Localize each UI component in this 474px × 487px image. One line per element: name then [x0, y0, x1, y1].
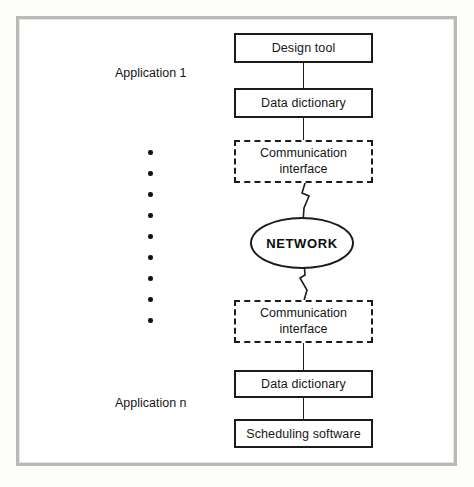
label-application-bottom: Application n — [115, 396, 187, 410]
node-communication-interface-bottom-label-line2: interface — [280, 322, 328, 338]
ellipsis-dot — [148, 213, 153, 218]
vertical-ellipsis — [148, 150, 160, 334]
ellipsis-dot — [148, 192, 153, 197]
node-data-dictionary-bottom-label: Data dictionary — [261, 377, 346, 391]
node-scheduling-software[interactable]: Scheduling software — [234, 419, 373, 448]
node-communication-interface-top-label-line2: interface — [280, 162, 328, 178]
ellipsis-dot — [148, 297, 153, 302]
node-communication-interface-top[interactable]: Communication interface — [234, 140, 373, 183]
diagram-canvas: Application 1 Application n Design tool … — [0, 0, 474, 487]
ellipsis-dot — [148, 318, 153, 323]
node-scheduling-software-label: Scheduling software — [246, 427, 360, 441]
node-network[interactable]: NETWORK — [250, 217, 354, 269]
ellipsis-dot — [148, 276, 153, 281]
node-communication-interface-bottom-label-line1: Communication — [260, 306, 347, 322]
ellipsis-dot — [148, 171, 153, 176]
connector-design-tool-to-data-dictionary — [303, 62, 304, 89]
node-design-tool-label: Design tool — [272, 41, 336, 55]
page-frame — [16, 16, 457, 466]
connector-data-dictionary-to-comm-interface-top — [303, 117, 304, 141]
node-data-dictionary-top-label: Data dictionary — [261, 96, 346, 110]
node-network-label: NETWORK — [266, 236, 337, 251]
node-data-dictionary-top[interactable]: Data dictionary — [234, 88, 373, 118]
node-design-tool[interactable]: Design tool — [234, 33, 373, 63]
lightning-connector-top — [286, 180, 324, 222]
label-application-top: Application 1 — [115, 66, 187, 80]
connector-comm-interface-to-data-dictionary-bottom — [303, 342, 304, 371]
node-communication-interface-bottom[interactable]: Communication interface — [234, 300, 373, 343]
ellipsis-dot — [148, 255, 153, 260]
ellipsis-dot — [148, 234, 153, 239]
node-data-dictionary-bottom[interactable]: Data dictionary — [234, 370, 373, 398]
connector-data-dictionary-to-scheduling-software — [303, 396, 304, 420]
node-communication-interface-top-label-line1: Communication — [260, 146, 347, 162]
ellipsis-dot — [148, 150, 153, 155]
